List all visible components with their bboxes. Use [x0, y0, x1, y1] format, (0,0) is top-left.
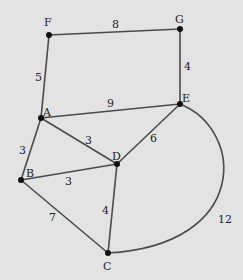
node-label-e: E — [182, 92, 190, 105]
edge-weight-f-g: 8 — [112, 18, 119, 31]
edge-weight-b-c: 7 — [49, 211, 56, 224]
node-label-b: B — [26, 167, 34, 180]
node-label-g: G — [175, 13, 184, 26]
edge-d-c — [108, 164, 117, 253]
edge-a-d — [41, 118, 117, 164]
edge-e-d — [117, 104, 180, 164]
edge-weight-a-e: 9 — [107, 97, 114, 110]
graph-diagram: 854933637412 FGAEDBC — [0, 0, 243, 280]
node-g — [177, 26, 183, 32]
edge-weight-a-d: 3 — [85, 134, 92, 147]
edge-weight-g-e: 4 — [184, 60, 191, 73]
edge-weight-d-c: 4 — [102, 204, 109, 217]
node-b — [18, 177, 24, 183]
node-label-d: D — [112, 150, 121, 163]
edge-weight-e-d: 6 — [150, 132, 157, 145]
edge-b-c — [21, 180, 108, 253]
edge-weight-a-b: 3 — [19, 144, 26, 157]
edge-e-c — [108, 104, 224, 253]
edge-weight-f-a: 5 — [35, 71, 42, 84]
node-label-f: F — [44, 16, 52, 29]
edge-weight-e-c: 12 — [218, 213, 232, 226]
edges-layer: 854933637412 — [19, 18, 232, 253]
node-f — [46, 32, 52, 38]
nodes-layer: FGAEDBC — [18, 13, 190, 273]
node-label-c: C — [103, 260, 111, 273]
node-label-a: A — [42, 106, 52, 119]
edge-weight-b-d: 3 — [65, 175, 72, 188]
node-c — [105, 250, 111, 256]
